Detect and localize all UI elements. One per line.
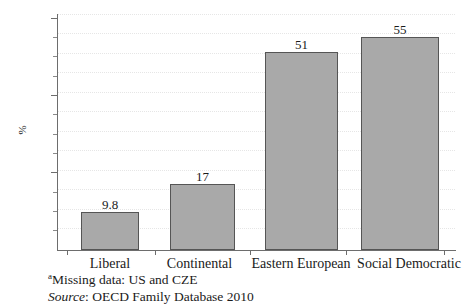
x-axis-line — [57, 250, 456, 251]
bar-eastern-european[interactable] — [265, 52, 338, 250]
bar-chart-figure: 60 40 20 0 % 9.8 17 51 55 Liberal Contin… — [0, 0, 470, 308]
bar-value-continental: 17 — [170, 170, 235, 183]
bar-continental[interactable] — [170, 184, 235, 250]
bars-layer — [57, 14, 456, 250]
x-tick-1 — [155, 250, 156, 255]
bar-social-democratic[interactable] — [361, 37, 439, 250]
x-tick-4 — [444, 250, 445, 255]
footnote-missing-data: aMissing data: US and CZE — [48, 271, 254, 288]
x-label-social-democratic: Social Democratic — [352, 256, 466, 271]
y-axis-title: % — [16, 125, 28, 134]
footnote-missing-data-text: Missing data: US and CZE — [52, 272, 198, 287]
footnote-source-text: OECD Family Database 2010 — [92, 289, 254, 304]
x-tick-0 — [67, 250, 68, 255]
footnotes: aMissing data: US and CZE Source: OECD F… — [48, 271, 254, 306]
footnote-source: Source: OECD Family Database 2010 — [48, 288, 254, 305]
bar-value-social-democratic: 55 — [361, 23, 439, 36]
x-label-eastern-european: Eastern European — [249, 256, 353, 271]
x-label-liberal: Liberal — [71, 256, 149, 271]
x-label-continental: Continental — [151, 256, 248, 271]
bar-liberal[interactable] — [81, 212, 139, 250]
bar-value-eastern-european: 51 — [265, 38, 338, 51]
footnote-source-label: Source — [48, 289, 85, 304]
x-tick-3 — [346, 250, 347, 255]
x-tick-2 — [250, 250, 251, 255]
bar-value-liberal: 9.8 — [81, 198, 139, 211]
